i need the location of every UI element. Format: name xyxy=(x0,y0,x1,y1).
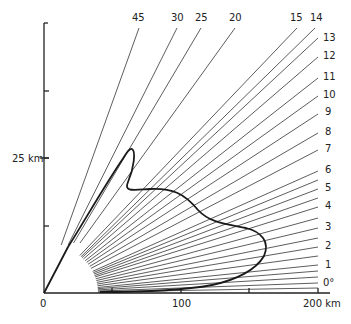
ray-label: 3 xyxy=(325,221,331,232)
ray-30 xyxy=(68,28,177,245)
ray-45 xyxy=(61,28,139,245)
ray-25 xyxy=(74,28,201,243)
ray-5 xyxy=(94,189,318,274)
ray-0_3 xyxy=(98,277,318,290)
ray-label: 11 xyxy=(323,71,336,82)
y-tick-label: 25 km xyxy=(12,153,43,164)
ray-7 xyxy=(91,150,318,268)
ray-diagram: 0100200 km 25 km 45302520151413121110987… xyxy=(0,0,351,324)
ray-label: 7 xyxy=(325,143,331,154)
ray-label: 14 xyxy=(310,12,323,23)
ray-label: 10 xyxy=(323,89,336,100)
x-tick-label: 0 xyxy=(40,298,46,309)
ray-label: 30 xyxy=(171,12,184,23)
ray-14 xyxy=(81,28,315,257)
ray-label: 45 xyxy=(132,12,145,23)
ray-20 xyxy=(80,28,235,243)
ray-10 xyxy=(87,96,318,262)
x-tick-label: 100 xyxy=(172,298,191,309)
ray-4_5 xyxy=(95,198,318,276)
ray-label: 5 xyxy=(325,182,331,193)
ray-label: 13 xyxy=(323,32,336,43)
ray-15 xyxy=(80,28,297,256)
ray-label: 25 xyxy=(195,12,208,23)
ray-angle-labels: 453025201514131211109876543210° xyxy=(132,12,336,288)
ray-label: 6 xyxy=(325,164,331,175)
ray-3 xyxy=(96,228,318,281)
ray-label: 0° xyxy=(323,277,334,288)
ray-label: 8 xyxy=(325,126,331,137)
ray-label: 9 xyxy=(325,106,331,117)
ray-8 xyxy=(90,133,318,266)
ray-13 xyxy=(82,38,318,258)
ray-label: 4 xyxy=(325,200,331,211)
ray-lines xyxy=(61,28,318,292)
x-axis-ticks: 0100200 km xyxy=(40,288,341,309)
ray-label: 2 xyxy=(325,240,331,251)
x-tick-label: 200 km xyxy=(303,298,341,309)
ray-5_5 xyxy=(93,180,318,273)
ray-label: 15 xyxy=(290,12,303,23)
ray-label: 12 xyxy=(323,50,336,61)
ray-label: 20 xyxy=(229,12,242,23)
ray-label: 1 xyxy=(325,259,331,270)
